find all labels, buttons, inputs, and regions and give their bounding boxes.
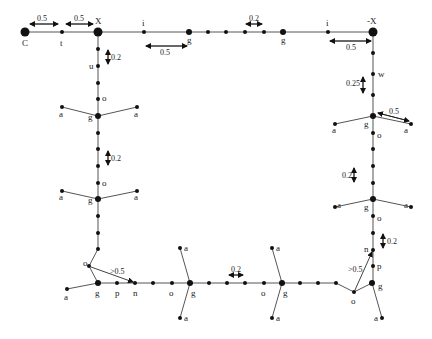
label-o: o — [102, 93, 107, 103]
dim-label: 0.5 — [160, 48, 170, 57]
node-labels: C t X i g g i -X u o g a a o g a a o a g… — [22, 16, 408, 323]
node — [371, 164, 375, 168]
node-g — [370, 113, 376, 119]
node — [371, 51, 375, 55]
node — [225, 281, 229, 285]
label-u: u — [89, 61, 94, 71]
label-negX: -X — [367, 16, 377, 26]
branch-edge — [272, 248, 282, 283]
dim-label: 0.2 — [111, 154, 121, 163]
node — [371, 231, 375, 235]
node — [96, 131, 100, 135]
label-a: a — [59, 109, 63, 119]
node — [243, 281, 247, 285]
label-a: a — [332, 125, 336, 135]
node-g — [95, 280, 101, 286]
label-a: a — [134, 192, 138, 202]
node — [334, 281, 338, 285]
label-a: a — [276, 243, 280, 253]
node — [371, 93, 375, 97]
node-p — [115, 281, 119, 285]
node — [96, 231, 100, 235]
branch-edge — [67, 283, 98, 289]
node — [316, 281, 320, 285]
label-a: a — [184, 243, 188, 253]
node-u — [96, 64, 100, 68]
node-a — [65, 287, 69, 291]
node-g — [369, 280, 375, 286]
node-i — [326, 30, 330, 34]
dim-label: 0.25 — [346, 79, 360, 88]
label-a: a — [64, 292, 68, 302]
node-g — [370, 196, 376, 202]
label-a: a — [374, 313, 378, 323]
label-i: i — [142, 18, 145, 28]
node-o — [262, 281, 266, 285]
node-a — [409, 122, 413, 126]
node-t — [60, 30, 64, 34]
label-o: o — [351, 296, 356, 306]
node — [96, 47, 100, 51]
left-bend-edge — [89, 249, 98, 266]
node-o — [170, 281, 174, 285]
label-g: g — [88, 195, 93, 205]
branch-edge — [98, 191, 137, 199]
node-n — [133, 281, 137, 285]
bottom-bend-edge-2 — [354, 283, 372, 292]
node-a — [178, 316, 182, 320]
dim-label: 0.5 — [37, 14, 47, 23]
branch-edge — [62, 191, 98, 199]
node-a — [270, 316, 274, 320]
node-a — [380, 316, 384, 320]
label-g: g — [187, 35, 192, 45]
label-a: a — [404, 200, 408, 210]
label-p: p — [377, 261, 382, 271]
label-t: t — [60, 38, 63, 48]
node — [96, 81, 100, 85]
dim-label: 0.2 — [111, 53, 121, 62]
label-X: X — [95, 16, 102, 26]
node-n — [371, 248, 375, 252]
edges — [25, 32, 411, 318]
node-negX — [369, 28, 378, 37]
node-a — [178, 246, 182, 250]
node-o — [96, 97, 100, 101]
node — [371, 181, 375, 185]
node-o — [352, 290, 356, 294]
dim-label: 0.5 — [346, 43, 356, 52]
label-a: a — [404, 125, 408, 135]
label-n: n — [133, 288, 138, 298]
node-a — [409, 205, 413, 209]
node — [96, 247, 100, 251]
node — [224, 30, 228, 34]
node-a — [270, 246, 274, 250]
node — [96, 164, 100, 168]
branch-edge — [62, 107, 98, 116]
label-g: g — [191, 288, 196, 298]
dim-label: >0.5 — [348, 265, 363, 274]
label-o: o — [83, 258, 88, 268]
label-g: g — [364, 119, 369, 129]
node-g — [187, 280, 193, 286]
branch-edge — [180, 248, 190, 283]
label-w: w — [378, 69, 385, 79]
label-g: g — [378, 281, 383, 291]
dim-label: 0.5 — [389, 107, 399, 116]
label-g: g — [281, 35, 286, 45]
node — [262, 30, 266, 34]
node — [298, 281, 302, 285]
graph-diagram: C t X i g g i -X u o g a a o g a a o a g… — [0, 0, 432, 339]
dim-label: >0.5 — [110, 267, 125, 276]
label-o: o — [377, 213, 382, 223]
node-o — [371, 131, 375, 135]
dimension-markers — [30, 24, 409, 290]
label-g: g — [283, 288, 288, 298]
label-o: o — [102, 178, 107, 188]
dim-label: 0.2 — [342, 171, 352, 180]
label-o: o — [261, 288, 266, 298]
label-o: o — [377, 130, 382, 140]
bottom-bend-edge — [336, 283, 354, 292]
dimension-labels: 0.5 0.5 0.5 0.2 0.5 0.2 0.2 0.25 0.5 0.2… — [37, 14, 399, 276]
node — [207, 281, 211, 285]
node-w — [371, 72, 375, 76]
